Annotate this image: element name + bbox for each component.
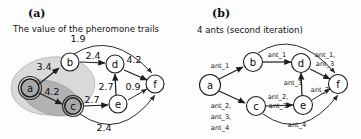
edge-label-a-b: ant_1: [211, 62, 229, 70]
panel-a-graph: a b c d e f 3.4: [0, 0, 180, 139]
edge-label-a-c: 4.2: [44, 86, 59, 97]
edge-label-d-f: 4.2: [126, 54, 141, 65]
node-a: a: [200, 75, 221, 96]
edge-label-a-b: 3.4: [36, 61, 51, 72]
edge-label-c-e: 2.7: [84, 94, 99, 105]
edge-label-c-e-line1: ant_2,: [268, 93, 288, 101]
node-f-label: f: [336, 79, 340, 90]
node-c: c: [247, 97, 266, 116]
edge-label-b-d: ant_1: [268, 51, 286, 59]
node-b: b: [61, 53, 79, 71]
node-a-label: a: [27, 83, 33, 94]
edge-label-e-f: 0.9: [125, 81, 140, 92]
edge-d-f: [310, 69, 330, 79]
node-c-label: c: [70, 101, 76, 112]
node-e-label: e: [300, 100, 306, 111]
edge-label-e-f: ant_2: [311, 86, 329, 94]
panel-b-graph: a b c d e f ant_1: [180, 0, 361, 139]
edge-e-d: [115, 74, 116, 95]
figure-container: (a) The value of the pheromone trails: [0, 0, 361, 139]
node-a-label: a: [207, 80, 213, 91]
panel-a: (a) The value of the pheromone trails: [0, 0, 180, 139]
node-e: e: [294, 96, 313, 115]
node-c: c: [63, 96, 84, 117]
edge-label-d-f-line2: ant_3: [316, 60, 334, 68]
node-f: f: [146, 75, 164, 93]
node-e: e: [109, 95, 127, 113]
edge-label-a-c-line3: ant_4: [211, 124, 229, 132]
edge-label-d-f-line1: ant_1,: [315, 51, 335, 59]
edge-label-c-f: ant_4: [288, 121, 306, 129]
edge-label-c-e-line2: ant_3: [269, 102, 287, 110]
node-e-label: e: [115, 99, 121, 110]
edge-label-a-c-line1: ant_2,: [211, 102, 231, 110]
edge-label-b-d: 2.4: [85, 50, 100, 61]
node-a: a: [19, 77, 42, 100]
node-f-label: f: [153, 79, 157, 90]
node-f: f: [329, 75, 348, 94]
edge-d-f: [124, 70, 147, 80]
edge-label-e-d: 2.7: [98, 81, 113, 92]
node-c-label: c: [253, 101, 259, 112]
node-d: d: [292, 54, 311, 73]
edge-b-d: [80, 62, 105, 63]
node-d-label: d: [298, 58, 304, 69]
panel-b: (b) 4 ants (second iteration): [180, 0, 361, 139]
node-d-label: d: [112, 59, 118, 70]
edge-label-c-f: 2.4: [96, 122, 111, 133]
edge-label-e-d: ant_3: [284, 79, 302, 87]
edge-c-e: [83, 105, 108, 106]
node-d: d: [106, 55, 124, 73]
edge-label-a-c-line2: ant_3,: [211, 113, 231, 121]
edge-label-b-f: 1.9: [70, 33, 85, 44]
node-b: b: [244, 53, 263, 72]
node-b-label: b: [67, 57, 73, 68]
node-b-label: b: [250, 57, 256, 68]
